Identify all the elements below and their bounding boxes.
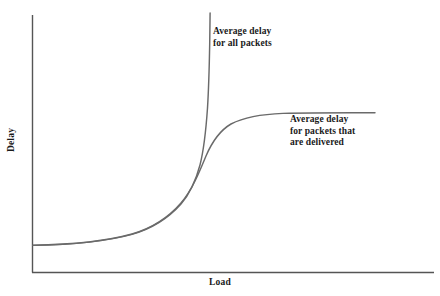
annotation-all-packets: Average delay for all packets (213, 26, 272, 49)
curve-all-packets (33, 13, 210, 245)
annotation-delivered-packets: Average delay for packets that are deliv… (290, 114, 355, 149)
x-axis-label: Load (0, 277, 440, 287)
chart-figure: Average delay for all packets Average de… (0, 0, 440, 296)
y-axis-label: Delay (6, 117, 16, 163)
